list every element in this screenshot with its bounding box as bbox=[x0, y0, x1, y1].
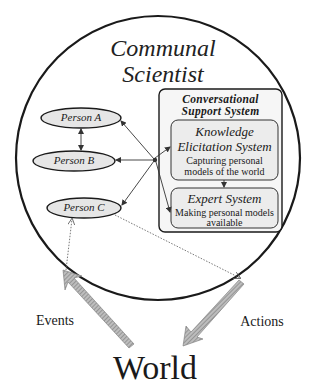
expert-title: Expert System bbox=[171, 191, 278, 206]
person-c-label: Person C bbox=[47, 201, 121, 214]
diagram-title-line2: Scientist bbox=[98, 61, 228, 87]
knowledge-title-line1: Knowledge bbox=[171, 124, 278, 139]
diagram-title-line1: Communal bbox=[98, 35, 228, 61]
hub-person-a-link bbox=[121, 121, 154, 159]
hub-person-c-link bbox=[122, 161, 154, 205]
events-big-arrow bbox=[63, 270, 134, 348]
support-system-title-line2: Support System bbox=[159, 105, 282, 118]
hub-node bbox=[153, 158, 157, 162]
expert-desc-line2: available bbox=[171, 217, 278, 229]
world-label: World bbox=[105, 350, 205, 386]
actions-label: Actions bbox=[234, 314, 290, 330]
knowledge-desc-line1: Capturing personal bbox=[171, 155, 278, 167]
events-label: Events bbox=[30, 313, 80, 329]
events-to-person-c-dotted bbox=[66, 219, 72, 270]
actions-big-arrow bbox=[183, 280, 244, 346]
knowledge-title-line2: Elicitation System bbox=[171, 139, 278, 154]
person-b-label: Person B bbox=[33, 154, 115, 167]
knowledge-desc-line2: models of the world bbox=[171, 166, 278, 178]
person-a-label: Person A bbox=[41, 111, 121, 124]
